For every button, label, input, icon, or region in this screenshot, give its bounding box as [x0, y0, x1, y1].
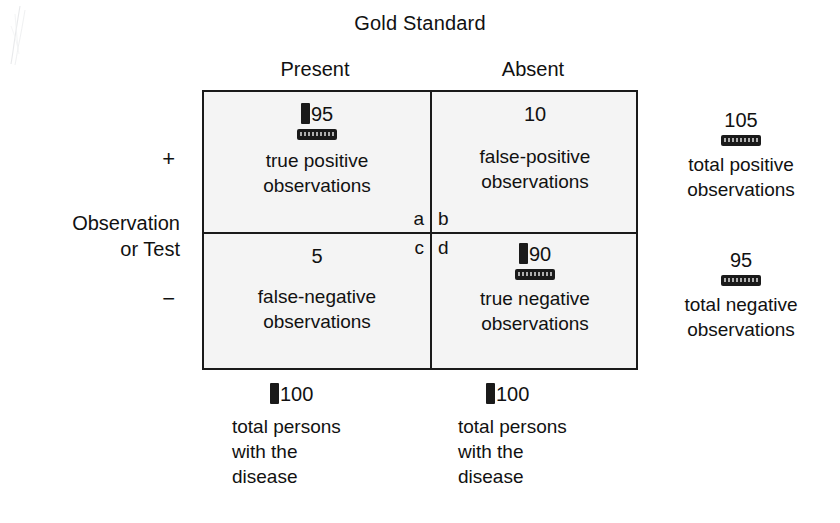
- cell-desc-line2: observations: [432, 311, 638, 336]
- cell-description-false-negative: false-negative observations: [204, 284, 430, 334]
- row-total-description: total negative observations: [648, 292, 834, 342]
- page-title: Gold Standard: [202, 12, 638, 35]
- cell-desc-line1: false-negative: [204, 284, 430, 309]
- table-cell-false-negative: 5 false-negative observations c: [204, 234, 430, 374]
- redaction-marker-icon: [721, 135, 761, 146]
- row-total-count: 105: [648, 108, 834, 146]
- column-total-desc-line2: with the: [458, 439, 658, 464]
- column-total-count-value: 100: [496, 383, 529, 405]
- cell-letter-d: d: [438, 238, 449, 257]
- scan-artifact-icon: [6, 4, 40, 66]
- column-header-present: Present: [202, 58, 428, 81]
- marker-bar-icon: [519, 243, 528, 264]
- contingency-table: 95 true positive observations a 10 false…: [202, 90, 638, 370]
- column-header-absent: Absent: [428, 58, 638, 81]
- row-total-count-value: 95: [730, 249, 752, 271]
- cell-desc-line1: false-positive: [432, 144, 638, 169]
- cell-count-true-negative: 90: [432, 242, 638, 280]
- cell-count-value: 90: [529, 243, 551, 265]
- cell-count-value: 5: [311, 245, 322, 267]
- cell-letter-c: c: [415, 238, 425, 257]
- cell-desc-line2: observations: [204, 173, 430, 198]
- column-total-desc-line3: disease: [232, 464, 432, 489]
- marker-bar-icon: [486, 383, 495, 404]
- row-total-count: 95: [648, 248, 834, 286]
- column-total-desc-line1: total persons: [458, 414, 658, 439]
- redaction-marker-icon: [515, 269, 555, 280]
- row-total-desc-line1: total positive: [648, 152, 834, 177]
- row-total-desc-line2: observations: [648, 177, 834, 202]
- row-total-positive: 105 total positive observations: [648, 108, 834, 202]
- row-total-negative: 95 total negative observations: [648, 248, 834, 342]
- column-total-count-value: 100: [280, 383, 313, 405]
- redaction-marker-icon: [721, 275, 761, 286]
- cell-count-true-positive: 95: [204, 102, 430, 140]
- row-axis-label-line1: Observation: [10, 210, 180, 236]
- figure-canvas: Gold Standard Present Absent + − Observa…: [0, 0, 840, 523]
- column-total-desc-line1: total persons: [232, 414, 432, 439]
- column-total-present: 100 total persons with the disease: [232, 382, 432, 489]
- column-total-desc-line3: disease: [458, 464, 658, 489]
- cell-desc-line2: observations: [432, 169, 638, 194]
- column-total-description: total persons with the disease: [458, 414, 658, 489]
- cell-count-false-negative: 5: [204, 244, 430, 268]
- cell-count-false-positive: 10: [432, 102, 638, 126]
- row-sign-positive: +: [0, 148, 175, 170]
- cell-desc-line1: true negative: [432, 286, 638, 311]
- row-total-count-value: 105: [724, 109, 757, 131]
- column-total-count: 100: [270, 382, 432, 406]
- row-sign-negative: −: [0, 288, 175, 310]
- table-cell-true-negative: 90 true negative observations d: [432, 234, 638, 374]
- marker-bar-icon: [301, 103, 310, 124]
- table-cell-false-positive: 10 false-positive observations b: [432, 92, 638, 232]
- row-total-desc-line2: observations: [648, 317, 834, 342]
- column-total-desc-line2: with the: [232, 439, 432, 464]
- row-total-description: total positive observations: [648, 152, 834, 202]
- cell-count-value: 10: [524, 103, 546, 125]
- cell-letter-b: b: [438, 209, 449, 228]
- row-axis-label: Observation or Test: [10, 210, 180, 262]
- cell-count-value: 95: [311, 103, 333, 125]
- column-total-absent: 100 total persons with the disease: [458, 382, 658, 489]
- cell-letter-a: a: [413, 209, 424, 228]
- redaction-marker-icon: [297, 129, 337, 140]
- column-total-count: 100: [486, 382, 658, 406]
- row-total-desc-line1: total negative: [648, 292, 834, 317]
- cell-desc-line2: observations: [204, 309, 430, 334]
- cell-description-true-positive: true positive observations: [204, 148, 430, 198]
- cell-description-true-negative: true negative observations: [432, 286, 638, 336]
- table-cell-true-positive: 95 true positive observations a: [204, 92, 430, 232]
- cell-description-false-positive: false-positive observations: [432, 144, 638, 194]
- marker-bar-icon: [270, 383, 279, 404]
- cell-desc-line1: true positive: [204, 148, 430, 173]
- column-total-description: total persons with the disease: [232, 414, 432, 489]
- row-axis-label-line2: or Test: [10, 236, 180, 262]
